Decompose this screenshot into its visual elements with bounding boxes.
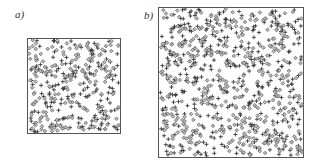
cross-point (182, 53, 186, 57)
cross-point (289, 153, 293, 157)
cross-point (280, 65, 284, 69)
cross-point (274, 9, 278, 13)
cross-point (296, 122, 300, 126)
diamond-point (31, 86, 35, 90)
diamond-point (220, 104, 224, 108)
diamond-point (248, 116, 252, 120)
diamond-point (193, 153, 197, 157)
cross-point (239, 45, 243, 49)
cross-point (66, 95, 70, 99)
cross-point (219, 135, 223, 139)
cross-point (82, 81, 86, 85)
cross-point (56, 83, 60, 87)
cross-point (291, 77, 295, 81)
cross-point (256, 84, 260, 88)
cross-point (247, 69, 251, 73)
cross-point (196, 49, 200, 53)
diamond-point (240, 40, 244, 44)
cross-point (53, 83, 57, 87)
diamond-point (238, 141, 242, 145)
diamond-point (46, 47, 50, 51)
cross-point (175, 112, 179, 116)
diamond-point (237, 35, 241, 39)
cross-point (169, 85, 173, 89)
cross-point (225, 35, 229, 39)
scatter-plot-b (158, 7, 304, 158)
diamond-point (227, 118, 231, 122)
diamond-point (188, 60, 192, 64)
diamond-point (74, 57, 78, 61)
cross-point (59, 102, 63, 106)
cross-point (216, 97, 220, 101)
diamond-point (188, 147, 192, 151)
cross-point (69, 39, 73, 43)
cross-point (198, 114, 202, 118)
cross-point (257, 30, 261, 34)
diamond-point (57, 92, 61, 96)
cross-point (108, 101, 112, 105)
cross-point (212, 58, 216, 62)
cross-point (192, 102, 196, 106)
cross-point (38, 63, 42, 67)
diamond-point (68, 47, 72, 51)
cross-point (204, 142, 208, 146)
diamond-point (251, 141, 255, 145)
diamond-point (38, 120, 42, 124)
cross-point (105, 57, 109, 61)
cross-point (247, 41, 251, 45)
cross-point (273, 42, 277, 46)
diamond-point (271, 98, 275, 102)
diamond-point (193, 28, 197, 32)
diamond-point (215, 50, 219, 54)
cross-point (183, 67, 187, 71)
diamond-point (262, 46, 266, 50)
diamond-point (228, 149, 232, 153)
diamond-point (82, 128, 86, 132)
diamond-point (263, 100, 267, 104)
cross-point (266, 70, 270, 74)
diamond-point (39, 52, 43, 56)
diamond-point (31, 66, 35, 70)
cross-point (216, 43, 220, 47)
diamond-point (73, 64, 77, 68)
cross-point (115, 52, 119, 56)
diamond-point (256, 106, 260, 110)
diamond-point (164, 47, 168, 51)
cross-point (51, 55, 55, 59)
cross-point (237, 64, 241, 68)
diamond-point (94, 80, 98, 84)
cross-point (252, 35, 256, 39)
diamond-point (275, 28, 279, 32)
diamond-point (297, 129, 301, 133)
diamond-point (243, 20, 247, 24)
diamond-point (170, 13, 174, 17)
cross-point (57, 108, 61, 112)
cross-point (250, 50, 254, 54)
diamond-point (110, 49, 114, 53)
diamond-point (242, 83, 246, 87)
diamond-point (196, 53, 200, 57)
cross-point (286, 120, 290, 124)
cross-point (36, 110, 40, 114)
diamond-point (225, 45, 229, 49)
diamond-point (88, 80, 92, 84)
cross-point (199, 152, 203, 156)
cross-point (193, 75, 197, 79)
diamond-point (38, 96, 42, 100)
diamond-point (218, 69, 222, 73)
diamond-point (189, 112, 193, 116)
diamond-point (104, 44, 108, 48)
cross-point (212, 146, 216, 150)
diamond-point (251, 46, 255, 50)
cross-point (60, 45, 64, 49)
cross-point (270, 20, 274, 24)
diamond-point (299, 61, 303, 65)
diamond-point (259, 117, 263, 121)
diamond-point (78, 82, 82, 86)
cross-point (269, 79, 273, 83)
cross-point (29, 116, 33, 120)
cross-point (64, 62, 68, 66)
cross-point (60, 59, 64, 63)
cross-point (294, 111, 298, 115)
cross-point (220, 142, 224, 146)
